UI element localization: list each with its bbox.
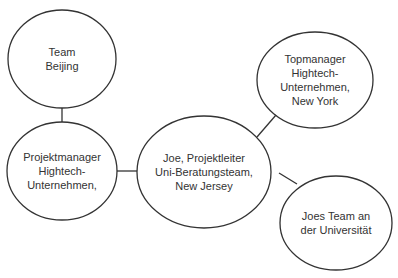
node-label-team-beijing: Team Beijing <box>8 10 116 108</box>
node-label-projektmanager: Projektmanager Hightech- Unternehmen, <box>7 122 117 220</box>
node-label-topmanager: Topmanager Hightech- Unternehmen, New Yo… <box>257 32 373 128</box>
node-label-joe: Joe, Projektleiter Uni-Beratungsteam, Ne… <box>137 116 271 228</box>
node-label-joes-team: Joes Team an der Universität <box>280 176 392 270</box>
